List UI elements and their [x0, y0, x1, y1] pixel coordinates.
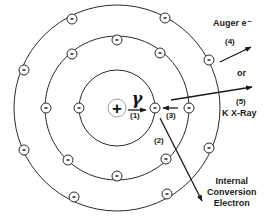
electron-icon	[150, 103, 160, 113]
label-step-1: (1)	[130, 111, 140, 120]
nucleus: +	[108, 99, 126, 118]
electron-icon	[204, 55, 214, 65]
electron-icon	[67, 14, 77, 24]
electron-icon	[204, 143, 214, 153]
electron-icon	[162, 189, 172, 199]
gamma-symbol: γ	[132, 89, 144, 108]
auger-arrow	[220, 47, 251, 62]
electron-icon	[41, 103, 51, 113]
label-ic-line2: Conversion	[207, 187, 257, 198]
nucleus-plus-icon: +	[112, 99, 122, 118]
electron-icon	[184, 103, 194, 113]
electron-icon	[112, 171, 122, 181]
electron-icon	[155, 48, 165, 58]
label-or: or	[237, 68, 246, 78]
electron-icon	[160, 13, 170, 23]
label-step-2: (2)	[154, 136, 164, 145]
electron-icon	[19, 65, 29, 75]
label-ic-line3: Electron	[207, 198, 257, 209]
label-step-4: (4)	[225, 37, 235, 46]
electron-icon	[19, 145, 29, 155]
label-step-3: (3)	[166, 111, 176, 120]
label-step-5: (5)	[236, 97, 246, 106]
label-auger-electron: Auger e⁻	[213, 18, 252, 28]
electron-icon	[74, 103, 84, 113]
label-ic-line1: Internal	[207, 176, 257, 187]
electron-icon	[69, 192, 79, 202]
label-k-xray: K X-Ray	[222, 108, 257, 118]
electron-icon	[67, 49, 77, 59]
electron-icon	[63, 155, 73, 165]
electron-icon	[161, 154, 171, 164]
label-internal-conversion: Internal Conversion Electron	[207, 176, 257, 209]
electron-icon	[112, 35, 122, 45]
